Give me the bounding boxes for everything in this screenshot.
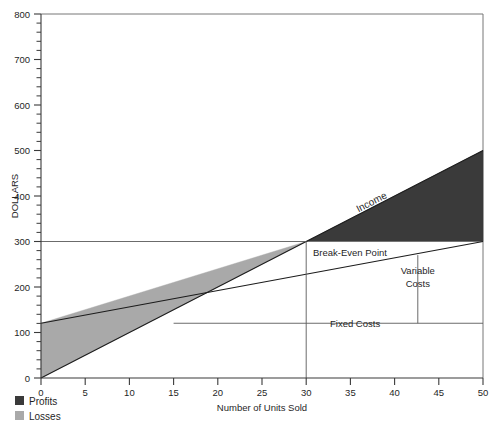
legend-swatch-profits: [15, 396, 24, 405]
variable-costs-annotation-line2: Costs: [406, 278, 431, 289]
fixed-costs-annotation: Fixed Costs: [330, 318, 380, 329]
y-tick-label: 800: [14, 9, 30, 20]
y-tick-label: 200: [14, 282, 30, 293]
legend-label-losses: Losses: [29, 411, 61, 422]
y-tick-label: 700: [14, 54, 30, 65]
x-tick-label: 45: [434, 387, 445, 398]
y-axis-title: DOLLARS: [9, 174, 20, 218]
chart-legend: Profits Losses: [15, 396, 61, 422]
chart-canvas: 800 700 600 500 400 300 200 100 0 0 5 10…: [0, 0, 496, 425]
y-tick-label: 500: [14, 145, 30, 156]
break-even-point-annotation: Break-Even Point: [313, 247, 387, 258]
x-tick-label: 25: [257, 387, 268, 398]
x-axis-ticks: [41, 378, 483, 385]
y-tick-label: 100: [14, 327, 30, 338]
break-even-chart: 800 700 600 500 400 300 200 100 0 0 5 10…: [0, 0, 496, 425]
x-tick-label: 10: [124, 387, 135, 398]
x-tick-labels: 0 5 10 15 20 25 30 35 40 45 50: [38, 387, 488, 398]
x-tick-label: 5: [83, 387, 88, 398]
x-axis-title: Number of Units Sold: [217, 402, 307, 413]
legend-label-profits: Profits: [29, 396, 57, 407]
y-tick-label: 600: [14, 100, 30, 111]
x-tick-label: 15: [168, 387, 179, 398]
x-tick-label: 35: [345, 387, 356, 398]
x-tick-label: 30: [301, 387, 312, 398]
variable-costs-annotation-line1: Variable: [401, 265, 435, 276]
y-tick-label: 300: [14, 236, 30, 247]
y-tick-label: 0: [25, 373, 30, 384]
x-tick-label: 40: [389, 387, 400, 398]
legend-swatch-losses: [15, 411, 24, 420]
x-tick-label: 20: [213, 387, 224, 398]
x-tick-label: 50: [478, 387, 489, 398]
